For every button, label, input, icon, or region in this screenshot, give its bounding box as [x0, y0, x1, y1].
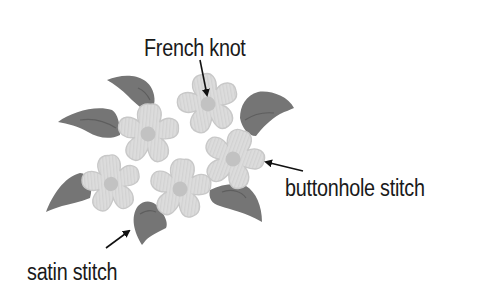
- leaf-left: [58, 108, 120, 137]
- satin-stitch-arrow: [106, 231, 129, 248]
- buttonhole-stitch-label: buttonhole stitch: [285, 177, 425, 200]
- leaf-right-top: [240, 92, 294, 136]
- buttonhole-stitch-arrow: [266, 162, 303, 171]
- satin-stitch-label: satin stitch: [27, 261, 117, 284]
- flower-upper-left: [116, 101, 181, 164]
- flower-top: [173, 69, 242, 136]
- leaf-bottom-right: [209, 184, 262, 222]
- flower-left: [80, 153, 142, 213]
- french-knot-label: French knot: [144, 37, 246, 60]
